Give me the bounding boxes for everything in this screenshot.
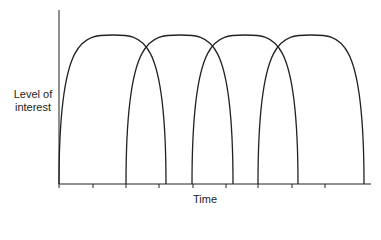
interest-arc	[126, 35, 233, 184]
interest-arc	[192, 35, 298, 184]
x-axis-label: Time	[193, 193, 217, 205]
y-axis-label-line2: interest	[2, 101, 64, 114]
y-axis-label: Level of interest	[2, 88, 64, 114]
y-axis-label-line1: Level of	[2, 88, 64, 101]
interest-arc	[59, 35, 166, 184]
interest-arc	[258, 35, 364, 184]
